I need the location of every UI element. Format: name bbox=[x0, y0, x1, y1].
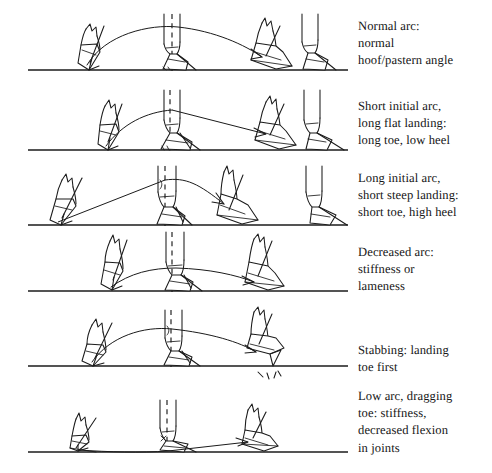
flight-arc-landing bbox=[172, 110, 266, 134]
hoof-standing bbox=[306, 166, 347, 225]
caption-short-initial-arc: Short initial arc, long flat landing: lo… bbox=[358, 98, 450, 150]
caption-stabbing: Stabbing: landing toe first bbox=[358, 342, 449, 376]
panel-decreased-arc: Decreased arc: stiffness or lameness bbox=[0, 232, 492, 306]
hoof-landing bbox=[255, 96, 296, 149]
impact-marks bbox=[258, 371, 281, 379]
hoof-landing bbox=[251, 18, 292, 69]
hoof-midstance bbox=[157, 166, 192, 225]
hoof-takeoff bbox=[101, 235, 127, 290]
hoof-landing bbox=[242, 404, 278, 451]
hoof-takeoff bbox=[98, 100, 122, 150]
hoof-takeoff bbox=[70, 413, 96, 452]
hoof-standing bbox=[304, 90, 344, 150]
caption-low-arc-dragging-toe: Low arc, dragging toe: stiffness, decrea… bbox=[358, 388, 452, 457]
panel-long-initial-arc: Long initial arc, short steep landing: s… bbox=[0, 158, 492, 232]
hoof-landing bbox=[245, 234, 284, 290]
hoof-flight-arc-figure: Normal arc: normal hoof/pastern angle bbox=[0, 0, 492, 473]
hoof-midstance bbox=[165, 232, 202, 291]
hoof-takeoff bbox=[82, 319, 112, 366]
hoof-standing bbox=[302, 14, 336, 70]
caption-decreased-arc: Decreased arc: stiffness or lameness bbox=[358, 244, 434, 296]
hoof-landing bbox=[217, 166, 258, 224]
flight-arc-landing bbox=[165, 179, 224, 204]
panel-normal-arc: Normal arc: normal hoof/pastern angle bbox=[0, 0, 492, 80]
hoof-landing-toe-first bbox=[247, 307, 284, 366]
panel-low-arc-dragging-toe: Low arc, dragging toe: stiffness, decrea… bbox=[0, 388, 492, 473]
hoof-midstance bbox=[161, 90, 200, 150]
hoof-midstance bbox=[163, 14, 196, 70]
caption-long-initial-arc: Long initial arc, short steep landing: s… bbox=[358, 170, 459, 222]
caption-normal-arc: Normal arc: normal hoof/pastern angle bbox=[358, 18, 453, 70]
hoof-takeoff bbox=[78, 24, 104, 70]
hoof-midstance bbox=[160, 400, 196, 452]
hoof-takeoff bbox=[50, 174, 82, 225]
panel-short-initial-arc: Short initial arc, long flat landing: lo… bbox=[0, 80, 492, 158]
panel-stabbing: Stabbing: landing toe first bbox=[0, 306, 492, 388]
hoof-midstance bbox=[164, 310, 200, 366]
